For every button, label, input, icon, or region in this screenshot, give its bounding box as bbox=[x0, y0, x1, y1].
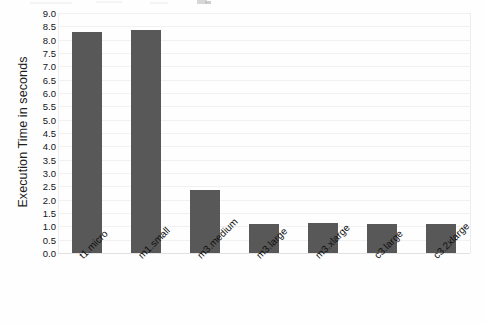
y-axis-tick-label: 2.5 bbox=[30, 181, 56, 192]
y-axis-tick-label: 9.0 bbox=[30, 8, 56, 19]
y-axis-tick-label: 0.5 bbox=[30, 234, 56, 245]
y-axis-tick-label: 7.5 bbox=[30, 48, 56, 59]
x-axis-tick-labels: t1.microm1.smallm3.mediumm3.largem3.xlar… bbox=[58, 253, 470, 324]
y-axis-tick-label: 3.5 bbox=[30, 154, 56, 165]
y-axis-tick-label: 7.0 bbox=[30, 61, 56, 72]
gridline bbox=[58, 120, 470, 121]
gridline bbox=[58, 53, 470, 54]
y-axis-tick-label: 4.5 bbox=[30, 128, 56, 139]
y-axis-tick-label: 4.0 bbox=[30, 141, 56, 152]
gridline bbox=[58, 160, 470, 161]
y-axis-tick-label: 0.0 bbox=[30, 248, 56, 259]
y-axis-tick-label: 1.0 bbox=[30, 221, 56, 232]
bar bbox=[72, 32, 102, 253]
gridline bbox=[58, 40, 470, 41]
gridline bbox=[58, 106, 470, 107]
gridline bbox=[58, 93, 470, 94]
gridline bbox=[58, 13, 470, 14]
y-axis-tick-label: 1.5 bbox=[30, 208, 56, 219]
gridline bbox=[58, 213, 470, 214]
y-axis-tick-label: 6.5 bbox=[30, 74, 56, 85]
gridline bbox=[58, 66, 470, 67]
bar-chart: Execution Time in seconds 0.00.51.01.52.… bbox=[0, 0, 485, 324]
plot-area bbox=[58, 13, 471, 253]
y-axis-tick-label: 3.0 bbox=[30, 168, 56, 179]
y-axis-tick-label: 6.0 bbox=[30, 88, 56, 99]
gridline bbox=[58, 173, 470, 174]
y-axis-tick-label: 2.0 bbox=[30, 194, 56, 205]
gridline bbox=[58, 186, 470, 187]
gridline bbox=[58, 200, 470, 201]
bar bbox=[131, 30, 161, 253]
scan-artifact bbox=[30, 2, 72, 4]
y-axis-tick-label: 8.5 bbox=[30, 21, 56, 32]
gridline bbox=[58, 26, 470, 27]
scan-artifact bbox=[150, 2, 168, 4]
gridline bbox=[58, 80, 470, 81]
y-axis-tick-label: 8.0 bbox=[30, 34, 56, 45]
y-axis-tick-label: 5.5 bbox=[30, 101, 56, 112]
scan-artifact bbox=[205, 1, 211, 4]
gridline bbox=[58, 146, 470, 147]
gridline bbox=[58, 133, 470, 134]
y-axis-tick-labels: 0.00.51.01.52.02.53.03.54.04.55.05.56.06… bbox=[30, 13, 56, 253]
scan-artifact bbox=[96, 1, 122, 3]
y-axis-tick-label: 5.0 bbox=[30, 114, 56, 125]
